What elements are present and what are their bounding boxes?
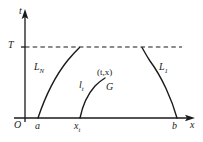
t-axis-label: t — [19, 6, 22, 16]
x-axis — [14, 115, 195, 122]
tick-label-T: T — [8, 40, 14, 50]
tick-label-b: b — [172, 121, 177, 131]
math-diagram-figure: t x O T a xt b LN L1 lt (t,x) G — [0, 0, 203, 142]
left-boundary-curve — [38, 48, 80, 119]
curve-label-lt-sub: t — [82, 85, 84, 92]
inner-curve — [80, 78, 105, 118]
tick-label-a: a — [35, 121, 40, 131]
t-axis — [22, 9, 29, 122]
right-boundary-curve — [142, 48, 177, 119]
region-label-G: G — [106, 82, 113, 92]
tick-label-xt: xt — [74, 121, 80, 131]
tick-label-xt-sub: t — [78, 126, 80, 133]
origin-label: O — [14, 120, 21, 130]
curve-label-L1: L1 — [159, 62, 168, 72]
curve-label-L1-sub: 1 — [165, 67, 168, 74]
x-axis-label: x — [190, 120, 194, 130]
endpoint-coordinate-label: (t,x) — [97, 68, 112, 77]
curve-label-LN: LN — [34, 62, 44, 72]
curve-label-lt: lt — [79, 80, 84, 90]
curve-label-LN-sub: N — [40, 67, 45, 74]
